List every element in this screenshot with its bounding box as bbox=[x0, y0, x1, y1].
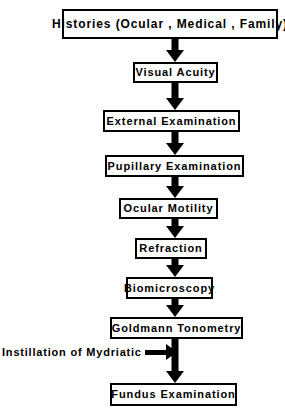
arrow-stem bbox=[172, 219, 179, 226]
node-visual-acuity-label: Visual Acuity bbox=[135, 67, 215, 78]
node-pupillary-examination-label: Pupillary Examination bbox=[108, 161, 242, 172]
node-biomicroscopy-label: Biomicroscopy bbox=[124, 283, 215, 294]
arrow-histories-to-visual-acuity bbox=[166, 39, 184, 62]
node-histories[interactable]: Histories (Ocular , Medical , Family) bbox=[62, 9, 278, 39]
node-goldmann-tonometry-label: Goldmann Tonometry bbox=[112, 323, 242, 334]
node-external-examination[interactable]: External Examination bbox=[103, 110, 240, 132]
arrow-head bbox=[166, 371, 184, 383]
node-visual-acuity[interactable]: Visual Acuity bbox=[133, 62, 218, 83]
arrow-head bbox=[166, 344, 177, 360]
arrow-pupillary-examination-to-ocular-motility bbox=[166, 177, 184, 198]
node-histories-label: Histories (Ocular , Medical , Family) bbox=[52, 18, 285, 30]
node-biomicroscopy[interactable]: Biomicroscopy bbox=[126, 277, 213, 299]
arrow-stem bbox=[172, 132, 179, 143]
node-external-examination-label: External Examination bbox=[107, 116, 237, 127]
arrow-head bbox=[166, 98, 184, 110]
flowchart-canvas: Histories (Ocular , Medical , Family) Vi… bbox=[0, 0, 285, 412]
arrow-head bbox=[166, 265, 184, 277]
mydriatic-arrow-icon bbox=[145, 344, 177, 360]
arrow-stem bbox=[145, 350, 167, 355]
arrow-ocular-motility-to-refraction bbox=[166, 219, 184, 238]
arrow-head bbox=[166, 305, 184, 317]
node-refraction[interactable]: Refraction bbox=[135, 238, 207, 259]
arrow-refraction-to-biomicroscopy bbox=[166, 259, 184, 277]
arrow-head bbox=[166, 50, 184, 62]
node-refraction-label: Refraction bbox=[139, 243, 202, 254]
node-fundus-examination[interactable]: Fundus Examination bbox=[110, 383, 237, 406]
arrow-head bbox=[166, 143, 184, 155]
arrow-biomicroscopy-to-goldmann-tonometry bbox=[166, 299, 184, 317]
arrow-external-examination-to-pupillary-examination bbox=[166, 132, 184, 155]
arrow-visual-acuity-to-external-examination bbox=[166, 83, 184, 110]
node-pupillary-examination[interactable]: Pupillary Examination bbox=[105, 155, 244, 177]
arrow-head bbox=[166, 226, 184, 238]
arrow-stem bbox=[172, 177, 179, 186]
node-fundus-examination-label: Fundus Examination bbox=[111, 389, 235, 400]
arrow-stem bbox=[172, 83, 179, 98]
annotation-mydriatic-label: Instillation of Mydriatic bbox=[2, 347, 142, 358]
node-goldmann-tonometry[interactable]: Goldmann Tonometry bbox=[110, 317, 243, 339]
annotation-mydriatic: Instillation of Mydriatic bbox=[2, 344, 177, 360]
node-ocular-motility-label: Ocular Motility bbox=[124, 203, 214, 214]
arrow-stem bbox=[172, 39, 179, 50]
arrow-head bbox=[166, 186, 184, 198]
node-ocular-motility[interactable]: Ocular Motility bbox=[119, 198, 218, 219]
